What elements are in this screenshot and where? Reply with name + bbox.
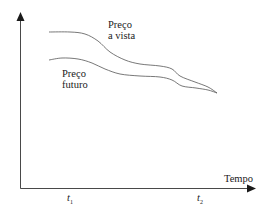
x-tick-t2-sub: 2 <box>200 199 203 205</box>
x-tick-t1: t1 <box>67 192 73 205</box>
x-axis-label: Tempo <box>224 173 253 184</box>
spot-price-label-line2: a vista <box>108 30 135 41</box>
x-tick-t2: t2 <box>197 192 203 205</box>
x-tick-t1-sub: 1 <box>70 199 73 205</box>
spot-price-label: Preço a vista <box>108 19 135 41</box>
futures-price-label-line1: Preço <box>62 68 88 79</box>
x-axis-arrow-icon <box>247 185 256 193</box>
spot-price-label-line1: Preço <box>108 19 135 30</box>
futures-price-label: Preço futuro <box>62 68 88 90</box>
y-axis-arrow-icon <box>17 12 25 21</box>
futures-price-label-line2: futuro <box>62 79 88 90</box>
